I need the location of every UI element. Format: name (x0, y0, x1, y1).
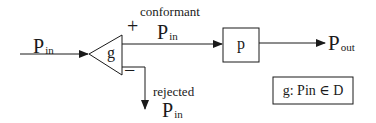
minus-sign: − (124, 60, 135, 80)
output-label: Pout (328, 33, 355, 54)
rejected-label: Pin (162, 100, 183, 120)
conformant-caption: conformant (140, 5, 200, 18)
conformant-label: Pin (157, 22, 178, 42)
output-label-main: P (328, 31, 340, 55)
conformant-label-main: P (157, 21, 168, 43)
gate-triangle (89, 35, 122, 75)
output-label-sub: out (341, 41, 355, 53)
plus-sign: + (127, 16, 138, 36)
process-box-label: p (223, 28, 259, 60)
rejected-label-main: P (162, 99, 173, 121)
legend-text: g: Pin ∈ D (273, 77, 353, 104)
input-label-sub: in (45, 44, 54, 56)
rejected-label-sub: in (174, 108, 183, 120)
rejected-caption: rejected (153, 85, 194, 98)
conformant-label-sub: in (169, 30, 178, 42)
gate-label: g (107, 45, 115, 61)
input-label: Pin (33, 36, 54, 56)
input-label-main: P (33, 35, 44, 57)
